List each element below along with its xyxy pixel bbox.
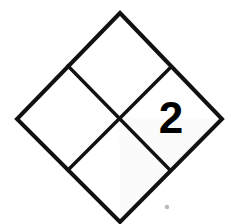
quadrant-face-top [17, 13, 222, 119]
nfpa-diamond-svg: 2 [0, 0, 232, 224]
rating-right: 2 [159, 93, 183, 142]
scan-speck-artifact [165, 205, 169, 209]
nfpa-placard-canvas: 2 [0, 0, 232, 224]
